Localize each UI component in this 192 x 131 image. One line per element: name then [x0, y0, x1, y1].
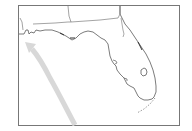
lake-okeechobee: [141, 68, 147, 76]
florida-map: [0, 0, 192, 131]
